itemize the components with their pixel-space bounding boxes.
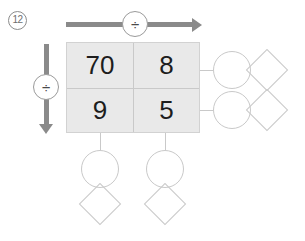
answer-diamond-bottom-col1[interactable] <box>144 183 186 225</box>
problem-number-badge: 12 <box>8 11 27 30</box>
answer-diamond-right-row0[interactable] <box>246 49 288 91</box>
divide-icon-top: ÷ <box>122 11 148 37</box>
divide-icon-left: ÷ <box>33 74 59 100</box>
number-grid: 70 8 9 5 <box>66 42 200 133</box>
grid-cell-r0c0: 70 <box>67 43 133 88</box>
grid-cell-r1c0: 9 <box>67 88 133 133</box>
answer-diamond-bottom-col0[interactable] <box>79 183 121 225</box>
connector-right-row0 <box>200 70 213 71</box>
grid-cell-r1c1: 5 <box>133 88 199 133</box>
grid-cell-r0c1: 8 <box>133 43 199 88</box>
division-grid-worksheet: 12 ÷ ÷ 70 8 9 5 <box>0 0 305 241</box>
connector-bottom-col0 <box>100 133 101 150</box>
connector-right-row1 <box>200 110 213 111</box>
top-arrow-head-icon <box>192 18 202 32</box>
left-arrow-head-icon <box>39 124 53 134</box>
connector-bottom-col1 <box>165 133 166 150</box>
answer-diamond-right-row1[interactable] <box>246 89 288 131</box>
